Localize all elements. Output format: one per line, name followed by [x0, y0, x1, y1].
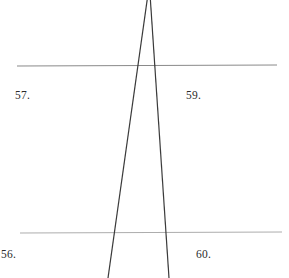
lower-horizontal-line: [20, 232, 282, 233]
left-oblique-line: [108, 0, 148, 278]
right-oblique-line: [150, 0, 169, 278]
upper-horizontal-line: [17, 65, 277, 66]
geometry-figure-drawing: [0, 0, 289, 278]
geometry-figure-canvas: 57. 59. 56. 60.: [0, 0, 289, 278]
exercise-label-57: 57.: [15, 90, 30, 102]
exercise-label-59: 59.: [186, 90, 201, 102]
exercise-label-60: 60.: [196, 249, 211, 261]
exercise-label-56: 56.: [1, 249, 16, 261]
